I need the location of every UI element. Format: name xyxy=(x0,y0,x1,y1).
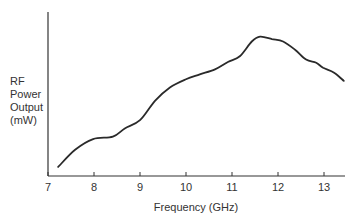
x-tick-label: 12 xyxy=(272,181,284,193)
y-label-line: RF xyxy=(10,75,43,88)
x-tick-label: 7 xyxy=(45,181,51,193)
y-label-line: Output xyxy=(10,101,43,114)
power-curve xyxy=(58,37,344,167)
x-tick-label: 13 xyxy=(318,181,330,193)
x-axis-label: Frequency (GHz) xyxy=(0,201,360,213)
chart-canvas: 78910111213 xyxy=(0,0,360,223)
x-tick-label: 9 xyxy=(137,181,143,193)
y-axis-label: RF Power Output (mW) xyxy=(10,75,43,127)
x-tick-label: 11 xyxy=(226,181,237,193)
x-tick-label: 10 xyxy=(180,181,192,193)
x-ticks: 78910111213 xyxy=(45,172,330,193)
x-axis-title: Frequency (GHz) xyxy=(154,201,238,213)
x-tick-label: 8 xyxy=(91,181,97,193)
y-label-line: Power xyxy=(10,88,43,101)
y-label-line: (mW) xyxy=(10,114,43,127)
